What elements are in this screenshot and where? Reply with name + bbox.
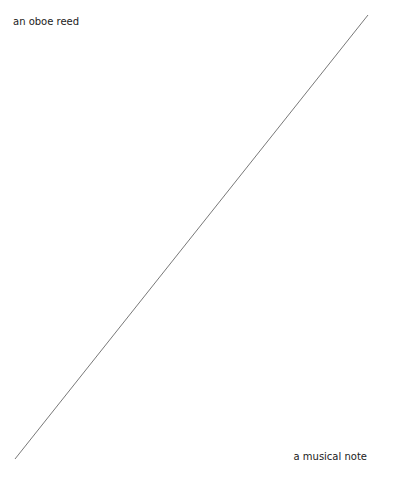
bottom-right-label: a musical note [294, 451, 368, 462]
top-left-label: an oboe reed [13, 16, 79, 27]
diagonal-line [0, 0, 395, 496]
